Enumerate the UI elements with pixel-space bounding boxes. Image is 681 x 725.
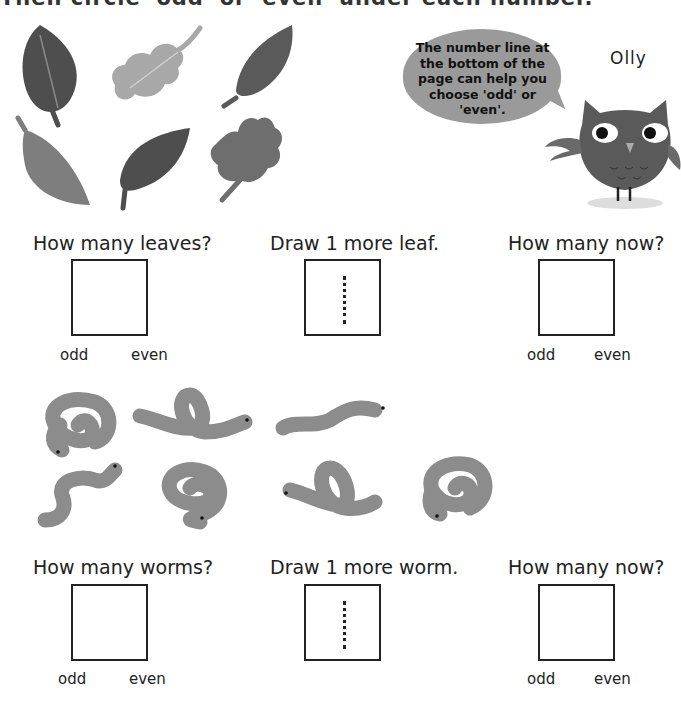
worm-icon [169, 470, 219, 522]
dotted-guide-line [343, 276, 346, 324]
leaf-icon [224, 25, 293, 106]
leaf-icon [18, 118, 90, 205]
leaf-icon [23, 25, 77, 125]
answer-box-worms-now[interactable] [538, 584, 615, 661]
choice-even[interactable]: even [129, 670, 166, 688]
leaf-icon [120, 128, 190, 208]
choice-odd[interactable]: odd [60, 346, 88, 364]
worms-illustration [0, 380, 520, 540]
choice-odd[interactable]: odd [527, 670, 555, 688]
instruction-header: Then circle 'odd' or 'even' under each n… [0, 0, 681, 10]
speech-bubble-text: The number line at the bottom of the pag… [410, 40, 555, 118]
worm-icon [45, 464, 117, 520]
choice-even[interactable]: even [594, 670, 631, 688]
question-how-many-worms: How many worms? [33, 556, 213, 578]
question-how-many-leaves: How many leaves? [33, 232, 212, 254]
choice-odd[interactable]: odd [58, 670, 86, 688]
owl-icon [540, 85, 681, 210]
question-draw-one-more-leaf: Draw 1 more leaf. [270, 232, 439, 254]
answer-box-worms-count[interactable] [71, 584, 148, 661]
question-how-many-now-leaves: How many now? [508, 232, 664, 254]
worm-icon [53, 400, 109, 454]
worm-icon [430, 464, 485, 518]
drawing-box-leaf[interactable] [304, 259, 381, 336]
question-how-many-now-worms: How many now? [508, 556, 664, 578]
worm-icon [284, 468, 375, 508]
question-draw-one-more-worm: Draw 1 more worm. [270, 556, 458, 578]
choice-even[interactable]: even [131, 346, 168, 364]
maple-leaf-icon [211, 118, 282, 200]
drawing-box-worm[interactable] [304, 584, 381, 661]
worm-icon [140, 395, 249, 432]
answer-box-leaves-count[interactable] [71, 259, 148, 336]
owl-name-label: Olly [610, 48, 647, 68]
dotted-guide-line [343, 601, 346, 649]
answer-box-leaves-now[interactable] [538, 259, 615, 336]
leaves-illustration [0, 20, 330, 220]
choice-odd[interactable]: odd [527, 346, 555, 364]
choice-even[interactable]: even [594, 346, 631, 364]
oak-leaf-icon [112, 28, 200, 100]
worm-icon [283, 406, 385, 428]
